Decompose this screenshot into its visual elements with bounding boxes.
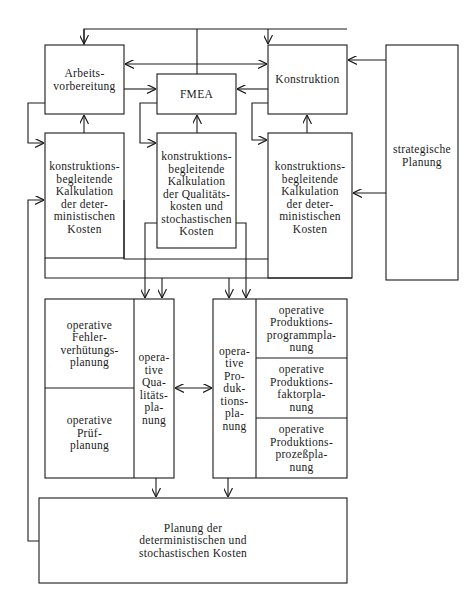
- label-kalk-qual: konstruktions- begleitende Kalkulation d…: [157, 150, 236, 240]
- label-kostenplanung: Planung der deterministischen und stocha…: [39, 498, 347, 583]
- label-op-fehlerverhuetung: operative Fehler- verhütungs- planung: [45, 299, 134, 388]
- label-strategische-planung: strategische Planung: [386, 143, 458, 183]
- label-op-prozessplanung: operative Produktions- prozeßpla- nung: [256, 418, 347, 478]
- label-kalk-det-left: konstruktions- begleitende Kalkulation d…: [45, 160, 124, 240]
- label-op-pruefplanung: operative Prüf- planung: [45, 388, 134, 478]
- label-op-faktorplanung: operative Produktions- faktorpla- nung: [256, 358, 347, 418]
- label-op-qualitaetsplanung: opera- tive Qua- litäts- pla- nung: [134, 299, 174, 478]
- label-konstruktion: Konstruktion: [268, 45, 347, 114]
- label-arbeitsvorbereitung: Arbeits- vorbereitung: [45, 45, 124, 114]
- label-kalk-det-right: konstruktions- begleitende Kalkulation d…: [268, 160, 352, 240]
- cost-planning-diagram: Arbeits- vorbereitung FMEA Konstruktion …: [0, 0, 474, 612]
- label-fmea: FMEA: [157, 74, 236, 114]
- label-op-programmplanung: operative Produktions- programmpla- nung: [256, 299, 347, 358]
- label-op-produktionsplanung: opera- tive Pro- duk- tions- pla- nung: [213, 299, 256, 478]
